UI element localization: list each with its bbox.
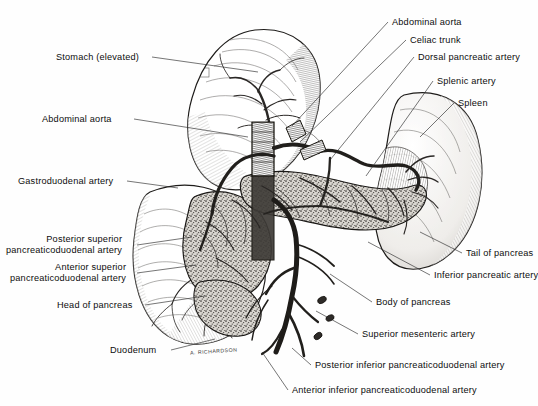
label-abdominal-aorta-right: Abdominal aorta [392, 17, 462, 28]
label-line-1: Anterior superior [10, 262, 126, 273]
label-head-of-pancreas: Head of pancreas [57, 300, 132, 311]
label-spleen: Spleen [458, 98, 488, 109]
label-dorsal-pancreatic-artery: Dorsal pancreatic artery [418, 52, 520, 63]
label-gastroduodenal-artery: Gastroduodenal artery [18, 176, 113, 187]
label-posterior-superior-pancreaticoduodenal-artery: Posterior superiorpancreaticoduodenal ar… [6, 234, 122, 257]
anatomical-figure: Stomach (elevated)Abdominal aortaGastrod… [0, 0, 538, 406]
label-inferior-pancreatic-artery: Inferior pancreatic artery [434, 270, 538, 281]
label-duodenum: Duodenum [110, 345, 156, 356]
label-posterior-inferior-pancreaticoduodenal-artery: Posterior inferior pancreaticoduodenal a… [315, 360, 505, 371]
label-splenic-artery: Splenic artery [437, 76, 496, 87]
label-stomach-elevated: Stomach (elevated) [56, 52, 139, 63]
label-line-2: pancreaticoduodenal artery [10, 273, 126, 284]
label-anterior-superior-pancreaticoduodenal-artery: Anterior superiorpancreaticoduodenal art… [10, 262, 126, 285]
label-line-1: Posterior superior [6, 234, 122, 245]
label-superior-mesenteric-artery: Superior mesenteric artery [362, 329, 475, 340]
label-abdominal-aorta-left: Abdominal aorta [42, 114, 112, 125]
label-body-of-pancreas: Body of pancreas [376, 297, 450, 308]
label-line-2: pancreaticoduodenal artery [6, 245, 122, 256]
label-anterior-inferior-pancreaticoduodenal-artery: Anterior inferior pancreaticoduodenal ar… [292, 385, 477, 396]
label-tail-of-pancreas: Tail of pancreas [466, 248, 533, 259]
label-celiac-trunk: Celiac trunk [410, 35, 461, 46]
